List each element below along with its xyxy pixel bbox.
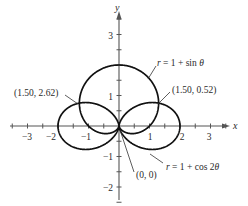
y-tick-label: −1	[103, 152, 113, 162]
x-tick-label: −2	[46, 132, 56, 142]
origin-label: (0, 0)	[136, 170, 157, 181]
theta-var: θ	[214, 162, 219, 172]
leader-origin	[120, 130, 134, 172]
y-axis-title: y	[114, 2, 120, 13]
y-tick-label: 1	[108, 92, 113, 102]
leader-point-b	[158, 92, 170, 104]
x-tick-label: −3	[22, 132, 32, 142]
leader-curve-sin	[148, 66, 156, 79]
x-tick-label: 1	[148, 132, 153, 142]
x-tick-label: −1	[81, 132, 91, 142]
curve-sin-label: r = 1 + sin θ	[157, 58, 204, 68]
point-b-label: (1.50, 0.52)	[172, 85, 216, 96]
leader-point-a	[65, 95, 78, 104]
polar-chart: x y −3 −2 −1 1 2 3 3 1 −1 −2 (1.50, 2.62…	[0, 0, 248, 206]
eq-rest: = 1 + cos 2	[170, 162, 215, 172]
y-tick-label: −2	[103, 183, 113, 193]
x-tick-label: 2	[180, 132, 185, 142]
theta-var: θ	[199, 58, 204, 68]
point-a-label: (1.50, 2.62)	[14, 88, 58, 99]
x-axis-title: x	[232, 120, 238, 131]
leader-curve-cos	[150, 154, 163, 163]
curve-cos-label: r = 1 + cos 2θ	[166, 162, 219, 172]
x-tick-label: 3	[207, 132, 212, 142]
eq-rest: = 1 + sin	[161, 58, 199, 68]
y-tick-label: 3	[108, 31, 113, 41]
